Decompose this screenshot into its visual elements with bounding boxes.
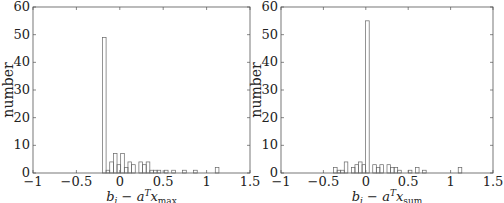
histogram-bar bbox=[391, 167, 395, 173]
histogram-bar bbox=[215, 167, 219, 173]
histogram-bar bbox=[124, 167, 128, 173]
x-tick-label: 0.5 bbox=[398, 174, 419, 189]
plot-frame bbox=[33, 7, 250, 173]
x-tick-label: −0.5 bbox=[61, 174, 93, 189]
y-tick-label: 10 bbox=[13, 137, 30, 152]
histogram-bar bbox=[164, 170, 168, 173]
x-axis-label: bi − aTxmax bbox=[106, 188, 177, 203]
histogram-bar bbox=[337, 170, 341, 173]
histogram-figure: −1−0.500.511.50102030405060numberbi − aT… bbox=[0, 0, 504, 203]
x-tick-label: 1 bbox=[202, 174, 210, 189]
x-tick-label: −0.5 bbox=[308, 174, 340, 189]
histogram-bar bbox=[415, 167, 419, 173]
x-tick-label: 1.5 bbox=[240, 174, 261, 189]
histogram-bar bbox=[373, 165, 377, 173]
histogram-bar bbox=[408, 170, 412, 173]
histogram-bar bbox=[351, 167, 355, 173]
y-axis-label: number bbox=[248, 62, 264, 118]
x-tick-label: 1 bbox=[446, 174, 454, 189]
histogram-bar bbox=[139, 162, 143, 173]
histogram-bar bbox=[132, 165, 136, 173]
plot-frame bbox=[281, 7, 493, 173]
histogram-bar bbox=[102, 37, 106, 173]
histogram-bar bbox=[398, 170, 402, 173]
histogram-bar bbox=[157, 170, 161, 173]
histogram-bar bbox=[106, 170, 110, 173]
histogram-bar bbox=[128, 162, 132, 173]
x-axis-label: bi − aTxsum bbox=[352, 188, 423, 203]
x-tick-label: 0.5 bbox=[153, 174, 174, 189]
histogram-bar bbox=[376, 167, 380, 173]
histogram-bar bbox=[146, 162, 150, 173]
histogram-xsum: −1−0.500.511.50102030405060numberbi − aT… bbox=[248, 0, 503, 203]
x-tick-label: 1.5 bbox=[483, 174, 504, 189]
histogram-bar bbox=[458, 167, 462, 173]
histogram-bar bbox=[387, 165, 391, 173]
y-tick-label: 50 bbox=[261, 27, 278, 42]
x-tick-label: 0 bbox=[362, 174, 370, 189]
histogram-bar bbox=[194, 170, 198, 173]
x-tick-label: 0 bbox=[116, 174, 124, 189]
histogram-bar bbox=[150, 170, 154, 173]
histogram-bar bbox=[341, 170, 345, 173]
y-tick-label: 10 bbox=[261, 137, 278, 152]
y-tick-label: 0 bbox=[22, 165, 30, 180]
histogram-bar bbox=[366, 21, 370, 173]
histogram-bar bbox=[355, 165, 359, 173]
histogram-bar bbox=[380, 165, 384, 173]
histogram-bar bbox=[121, 154, 125, 173]
histogram-bar bbox=[110, 162, 114, 173]
histogram-bar bbox=[143, 165, 147, 173]
y-tick-label: 0 bbox=[270, 165, 278, 180]
histogram-bar bbox=[172, 170, 176, 173]
histogram-bar bbox=[362, 165, 366, 173]
y-tick-label: 50 bbox=[13, 27, 30, 42]
histogram-bar bbox=[334, 167, 338, 173]
histogram-bar bbox=[344, 162, 348, 173]
histogram-bar bbox=[359, 162, 363, 173]
y-tick-label: 60 bbox=[13, 0, 30, 14]
y-axis-label: number bbox=[0, 62, 16, 118]
histogram-bar bbox=[183, 170, 187, 173]
histogram-xmax: −1−0.500.511.50102030405060numberbi − aT… bbox=[0, 0, 260, 203]
histogram-bar bbox=[113, 154, 117, 173]
histogram-bar bbox=[153, 170, 157, 173]
histogram-bar bbox=[423, 170, 427, 173]
y-tick-label: 60 bbox=[261, 0, 278, 14]
histogram-bar bbox=[394, 167, 398, 173]
